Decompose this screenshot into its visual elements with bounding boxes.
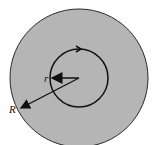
concentric-circles-diagram: r R bbox=[0, 0, 155, 145]
inner-radius-label: r bbox=[44, 72, 49, 84]
outer-radius-label: R bbox=[8, 103, 16, 115]
outer-disk bbox=[10, 9, 148, 145]
